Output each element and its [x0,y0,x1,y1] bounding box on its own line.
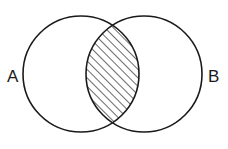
set-b-label: B [208,67,219,86]
set-a-label: A [7,67,19,86]
venn-diagram-canvas: A B [0,0,228,149]
venn-diagram-root: A B [0,0,228,149]
